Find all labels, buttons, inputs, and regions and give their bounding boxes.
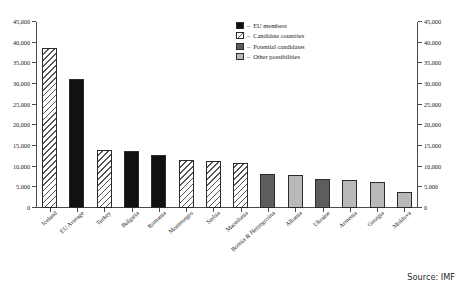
bar-slot: [118, 22, 145, 208]
y-tick-label-left: 5,000: [16, 184, 30, 190]
y-tick-label-left: 45,000: [13, 19, 30, 25]
bar-slot: [200, 22, 227, 208]
y-tick-right: [418, 207, 422, 208]
y-tick-label-right: 45,000: [424, 19, 441, 25]
y-tick-label-left: 15,000: [13, 143, 30, 149]
bar[interactable]: [342, 180, 357, 208]
legend-label: Candidate countries: [253, 32, 304, 39]
y-tick-label-right: 35,000: [424, 60, 441, 66]
bar-slot: [36, 22, 63, 208]
y-tick-right: [418, 21, 422, 22]
y-tick-label-left: 20,000: [13, 122, 30, 128]
legend-item-candidate[interactable]: –Candidate countries: [236, 32, 305, 39]
bar-slot: [145, 22, 172, 208]
legend-separator: –: [247, 32, 250, 39]
legend-item-eu[interactable]: –EU members: [236, 22, 305, 29]
x-axis-label: Ukraine: [312, 210, 331, 228]
bar-slot: [63, 22, 90, 208]
bar[interactable]: [42, 48, 57, 208]
legend-label: EU members: [253, 22, 287, 29]
bar-slot: [336, 22, 363, 208]
bar[interactable]: [260, 174, 275, 208]
legend-separator: –: [247, 43, 250, 50]
bar-slot: [363, 22, 390, 208]
x-axis-label: Bulgaria: [120, 210, 140, 229]
y-tick-label-right: 10,000: [424, 164, 441, 170]
source-note: Source: IMF: [407, 272, 455, 282]
legend: –EU members–Candidate countries–Potentia…: [236, 22, 305, 60]
legend-separator: –: [247, 53, 250, 60]
bar[interactable]: [69, 79, 84, 208]
y-tick-right: [418, 186, 422, 187]
legend-label: Potential candidates: [253, 43, 304, 50]
bar[interactable]: [397, 192, 412, 208]
x-axis-label: Georgia: [366, 210, 385, 228]
x-axis-label: Armenia: [338, 210, 359, 229]
legend-separator: –: [247, 22, 250, 29]
y-tick-right: [418, 42, 422, 43]
bar-series: [36, 22, 418, 208]
x-axis-labels: IcelandEU AverageTurkeyBulgariaRomaniaMo…: [36, 210, 418, 270]
legend-swatch-other: [236, 53, 244, 60]
bar-chart: 05,00010,00015,00020,00025,00030,00035,0…: [0, 0, 463, 289]
y-tick-label-right: 15,000: [424, 143, 441, 149]
bar[interactable]: [288, 175, 303, 208]
legend-label: Other possibilities: [253, 53, 300, 60]
bar-slot: [391, 22, 418, 208]
bar[interactable]: [315, 179, 330, 208]
y-tick-label-right: 0: [424, 205, 427, 211]
y-tick-label-right: 40,000: [424, 40, 441, 46]
x-axis-label: Iceland: [40, 210, 58, 227]
x-axis-label: Moldova: [392, 210, 413, 230]
y-tick-label-right: 25,000: [424, 102, 441, 108]
bar[interactable]: [124, 151, 139, 208]
y-tick-label-left: 40,000: [13, 40, 30, 46]
x-axis-label: Montenegro: [168, 210, 195, 235]
y-tick-label-left: 30,000: [13, 81, 30, 87]
x-axis-label: Macedonia: [224, 210, 249, 233]
legend-item-potential[interactable]: –Potential candidates: [236, 43, 305, 50]
legend-swatch-potential: [236, 43, 244, 50]
bar[interactable]: [233, 163, 248, 208]
x-axis-label: Serbia: [206, 210, 222, 225]
legend-swatch-eu: [236, 22, 244, 29]
y-tick-label-left: 10,000: [13, 164, 30, 170]
x-axis-label: Turkey: [95, 210, 113, 227]
y-tick-label-right: 20,000: [424, 122, 441, 128]
bar[interactable]: [97, 150, 112, 208]
bar[interactable]: [179, 160, 194, 208]
y-tick-right: [418, 145, 422, 146]
legend-item-other[interactable]: –Other possibilities: [236, 53, 305, 60]
bar[interactable]: [151, 155, 166, 208]
y-tick-right: [418, 166, 422, 167]
y-tick-right: [418, 83, 422, 84]
y-tick-right: [418, 124, 422, 125]
x-axis-label: Albania: [285, 210, 304, 228]
bar[interactable]: [370, 182, 385, 208]
y-tick-label-right: 30,000: [424, 81, 441, 87]
y-tick-label-left: 35,000: [13, 60, 30, 66]
y-tick-label-left: 0: [27, 205, 30, 211]
y-tick-label-left: 25,000: [13, 102, 30, 108]
x-axis-label: Romania: [146, 210, 167, 230]
x-axis-label: EU Average: [59, 210, 86, 235]
legend-swatch-candidate: [236, 32, 244, 39]
y-tick-label-right: 5,000: [424, 184, 438, 190]
plot-area: 05,00010,00015,00020,00025,00030,00035,0…: [36, 22, 418, 208]
y-tick-right: [418, 62, 422, 63]
bar-slot: [309, 22, 336, 208]
bar[interactable]: [206, 161, 221, 208]
y-tick-right: [418, 104, 422, 105]
bar-slot: [172, 22, 199, 208]
bar-slot: [91, 22, 118, 208]
